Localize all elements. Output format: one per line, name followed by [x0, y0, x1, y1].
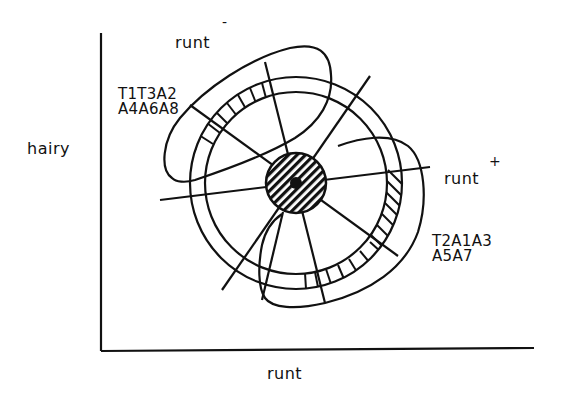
- x-axis: [101, 348, 534, 351]
- lobe-superscript: +: [489, 153, 501, 169]
- diagram-canvas: [0, 0, 562, 404]
- lobe-superscript: -: [222, 14, 227, 30]
- y-axis-label: hairy: [27, 141, 70, 157]
- runt-minus-genotype-line2: A4A6A8: [118, 101, 179, 117]
- lobe-name: runt: [175, 35, 210, 51]
- x-axis-label: runt: [267, 366, 302, 382]
- runt-plus-genotype-line2: A5A7: [432, 248, 473, 264]
- lobe-name: runt: [444, 171, 479, 187]
- core: [266, 153, 326, 213]
